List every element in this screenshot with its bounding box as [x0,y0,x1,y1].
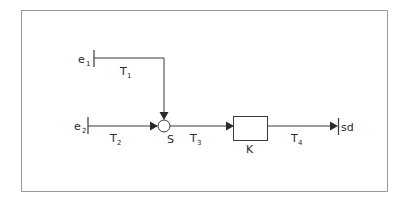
output-sd-label: sd [341,121,354,134]
diagram-frame [22,11,388,192]
edge-t2-subscript: 2 [117,139,121,147]
edge-t3-label: T [189,132,197,145]
input-e1-subscript: 1 [86,60,90,68]
edge-t1: T 1 [94,58,169,120]
edge-t1-arrowhead-icon [160,112,169,120]
edge-t3-arrowhead-icon [226,122,234,131]
edge-t4-subscript: 4 [298,139,303,147]
summing-junction-circle-icon [158,120,170,132]
edge-t4: T 4 [268,122,338,148]
edge-t2-arrowhead-icon [150,122,158,131]
diagram-canvas: e 1 T 1 e 2 T 2 S T 3 K [0,0,407,202]
edge-t3-subscript: 3 [197,139,201,147]
edge-t3: T 3 [170,122,234,148]
block-k-box [234,117,268,141]
block-k: K [234,117,268,157]
summing-junction-s: S [158,120,174,146]
edge-t4-arrowhead-icon [330,122,338,131]
input-e1: e 1 [78,50,94,68]
edge-t1-line [94,58,164,114]
edge-t2: T 2 [88,122,158,148]
input-e1-label: e [78,53,85,66]
input-e2: e 2 [74,117,88,135]
edge-t1-subscript: 1 [127,72,131,80]
input-e2-subscript: 2 [82,127,86,135]
summing-junction-label: S [167,133,174,146]
input-e2-label: e [74,120,81,133]
block-k-label: K [246,143,254,156]
edge-t2-label: T [109,132,117,145]
edge-t1-label: T [119,65,127,78]
edge-t4-label: T [290,132,298,145]
output-sd: sd [339,118,354,135]
